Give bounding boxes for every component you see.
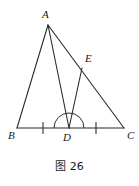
- geometry-diagram: [0, 0, 139, 186]
- geometry-figure: A B D C E 图 26: [0, 0, 139, 186]
- vertex-label-e: E: [85, 53, 92, 64]
- vertex-label-c: C: [127, 130, 134, 141]
- vertex-label-a: A: [42, 9, 49, 20]
- segment-ac: [48, 25, 124, 128]
- segment-de: [69, 68, 82, 128]
- vertex-label-d: D: [63, 132, 71, 143]
- segment-ad: [48, 25, 69, 128]
- segment-ab: [17, 25, 48, 128]
- figure-caption: 图 26: [0, 160, 139, 173]
- vertex-label-b: B: [8, 130, 15, 141]
